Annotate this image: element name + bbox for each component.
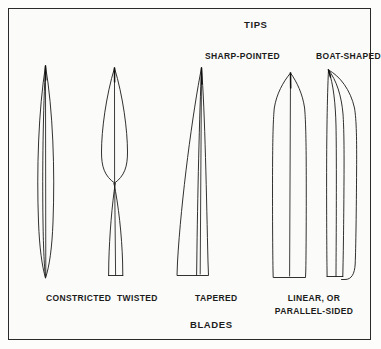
blade-label-linear-line1: LINEAR, OR	[275, 292, 353, 305]
section-title-blades: BLADES	[190, 318, 233, 331]
blade-label-linear-parallel-sided: LINEAR, OR PARALLEL-SIDED	[275, 292, 353, 318]
blade-label-linear-line2: PARALLEL-SIDED	[275, 305, 353, 318]
blade-label-constricted: CONSTRICTED	[46, 292, 111, 305]
botanical-blade-tip-figure: TIPS BLADES SHARP-POINTED BOAT-SHAPED CO…	[0, 0, 381, 349]
blade-label-twisted: TWISTED	[117, 292, 158, 305]
blade-label-tapered: TAPERED	[195, 292, 237, 305]
section-title-tips: TIPS	[244, 18, 268, 31]
tip-label-sharp-pointed: SHARP-POINTED	[205, 50, 280, 63]
tip-label-boat-shaped: BOAT-SHAPED	[316, 50, 381, 63]
